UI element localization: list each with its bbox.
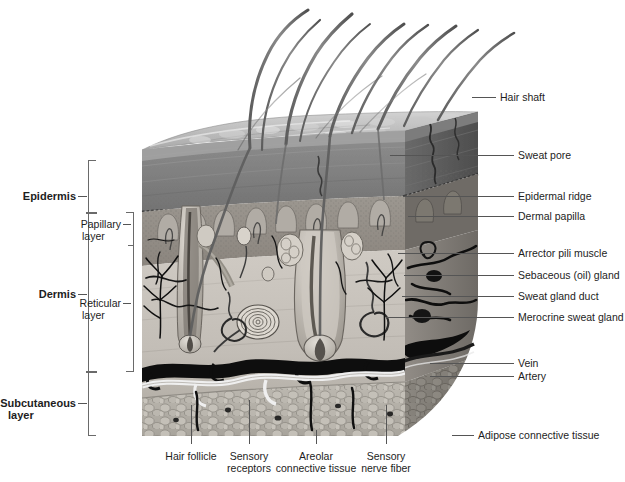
- leader-sebaceous-gland: [404, 275, 514, 276]
- leader-hair-follicle: [191, 405, 192, 444]
- left-bracket-tick-dermis-subcutaneous: [86, 371, 97, 373]
- label-merocrine-sweat-gland: Merocrine sweat gland: [518, 311, 624, 323]
- leader-areolar-connective-tissue: [316, 430, 317, 444]
- subcutaneous-label-dash: [78, 403, 87, 404]
- leader-sensory-receptors: [249, 400, 250, 444]
- label-papillary-line1: Papillary: [81, 218, 121, 230]
- dermis-label-dash: [78, 294, 87, 295]
- label-sensory-nerve-fiber-line1: Sensory: [367, 450, 406, 462]
- sublayer-bracket-line: [133, 212, 134, 372]
- label-reticular-line2: layer: [82, 309, 105, 321]
- label-dermis: Dermis: [39, 288, 76, 300]
- label-sensory-receptors-line1: Sensory: [230, 450, 269, 462]
- leader-merocrine-sweat-gland: [386, 317, 514, 318]
- label-dermal-papilla: Dermal papilla: [518, 210, 585, 222]
- sublayer-bracket-tick-middle: [128, 245, 134, 246]
- leader-sweat-pore: [390, 155, 514, 156]
- label-hair-follicle: Hair follicle: [165, 450, 216, 462]
- reticular-label-dash: [123, 303, 131, 304]
- label-artery: Artery: [518, 370, 546, 382]
- label-sensory-receptors-line2: receptors: [227, 462, 271, 474]
- label-papillary-line2: layer: [82, 230, 105, 242]
- epidermis-label-dash: [78, 196, 87, 197]
- label-arrector-pili-muscle: Arrector pili muscle: [518, 247, 607, 259]
- leader-arrector-pili-muscle: [398, 253, 514, 254]
- label-sweat-pore: Sweat pore: [518, 149, 571, 161]
- label-epidermis: Epidermis: [23, 190, 76, 202]
- leader-hair-shaft: [472, 97, 496, 98]
- label-vein: Vein: [518, 357, 538, 369]
- papillary-label-dash: [123, 224, 131, 225]
- label-reticular-line1: Reticular: [80, 297, 121, 309]
- leader-sweat-gland-duct: [402, 296, 514, 297]
- label-sweat-gland-duct: Sweat gland duct: [518, 290, 599, 302]
- label-subcutaneous-line1: Subcutaneous: [0, 397, 76, 409]
- left-bracket-cap-bottom: [88, 435, 96, 436]
- label-subcutaneous-line2: layer: [8, 409, 34, 421]
- leader-adipose-connective-tissue: [452, 435, 474, 436]
- label-areolar-connective-tissue-line2: connective tissue: [276, 462, 357, 474]
- label-hair-shaft: Hair shaft: [500, 91, 545, 103]
- skin-structure-figure: Epidermis Dermis Subcutaneous layer Papi…: [0, 0, 625, 482]
- leader-artery: [430, 376, 514, 377]
- label-adipose-connective-tissue: Adipose connective tissue: [478, 429, 599, 441]
- left-bracket-cap-top: [88, 160, 96, 161]
- sublayer-bracket-cap-bottom: [126, 371, 134, 372]
- leader-sensory-nerve-fiber: [386, 405, 387, 444]
- sublayer-bracket-cap-top: [126, 212, 134, 213]
- label-sebaceous-gland: Sebaceous (oil) gland: [518, 269, 620, 281]
- label-epidermal-ridge: Epidermal ridge: [518, 190, 592, 202]
- label-sensory-nerve-fiber-line2: nerve fiber: [361, 462, 411, 474]
- left-bracket-tick-epidermis-dermis: [86, 212, 97, 214]
- label-areolar-connective-tissue-line1: Areolar: [299, 450, 333, 462]
- leader-vein: [430, 363, 514, 364]
- leader-epidermal-ridge: [403, 196, 514, 197]
- leader-dermal-papilla: [408, 216, 514, 217]
